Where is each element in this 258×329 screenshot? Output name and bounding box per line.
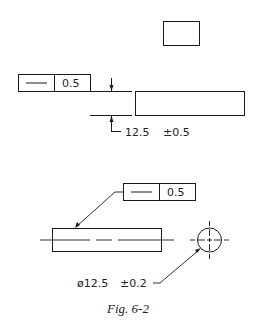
- diameter-callout: ø12.5: [77, 277, 108, 290]
- dimension-value: 12.5: [125, 126, 150, 139]
- feature-control-frame-bottom: 0.5: [124, 184, 196, 201]
- small-box: [164, 22, 200, 46]
- figure-caption: Fig. 6-2: [106, 301, 149, 316]
- dimension-tolerance: ±0.5: [163, 126, 190, 139]
- feature-control-frame-top: 0.5: [19, 75, 91, 92]
- drawing-canvas: 0.5 12.5 ±0.5 0.5: [0, 0, 258, 329]
- cylinder-end-view: [190, 221, 229, 259]
- part-side-view: [136, 92, 245, 116]
- diameter-tolerance: ±0.2: [120, 277, 147, 290]
- frame-tolerance-top: 0.5: [62, 77, 80, 90]
- leader-line-diameter: [153, 248, 201, 283]
- dimension-arrows: [110, 78, 122, 132]
- frame-tolerance-bottom: 0.5: [167, 186, 185, 199]
- leader-line-frame: [75, 192, 123, 228]
- engineering-drawing: 0.5 12.5 ±0.5 0.5: [0, 0, 258, 329]
